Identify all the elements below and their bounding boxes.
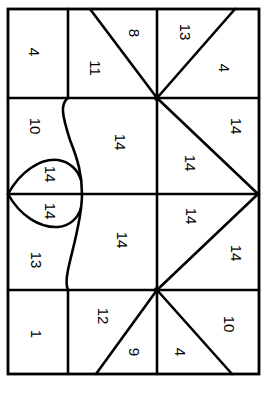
region-label: 10 — [221, 316, 238, 333]
region-label: 14 — [228, 245, 245, 262]
region-label: 13 — [177, 24, 194, 41]
region-label: 4 — [216, 64, 233, 72]
region-label: 14 — [228, 118, 245, 135]
region-label: 14 — [42, 166, 59, 183]
region-label: 1 — [28, 330, 45, 338]
region-label: 14 — [182, 155, 199, 172]
region-label: 4 — [26, 48, 43, 56]
region-label: 11 — [87, 60, 104, 76]
region-label: 4 — [172, 348, 189, 356]
region-label: 13 — [28, 252, 45, 269]
vertex-node — [154, 287, 160, 293]
region-label: 10 — [27, 118, 44, 135]
region-label: 14 — [183, 208, 200, 225]
puzzle-diagram: 4 11 8 13 4 10 14 14 14 14 14 13 14 14 1… — [0, 0, 278, 393]
region-label: 8 — [126, 29, 143, 37]
region-label: 14 — [112, 134, 129, 151]
region-label: 9 — [126, 348, 143, 356]
region-label: 14 — [42, 203, 59, 220]
region-label: 12 — [95, 308, 112, 325]
region-label: 14 — [114, 232, 131, 249]
vertex-node — [154, 95, 160, 101]
